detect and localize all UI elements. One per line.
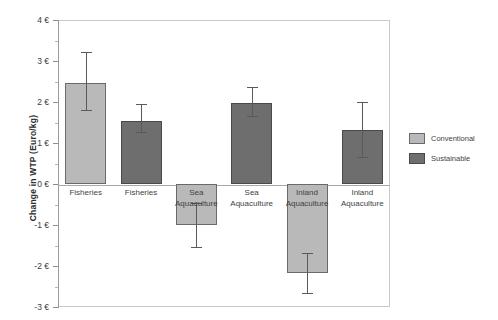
category-label-2: Sea Aquaculture <box>169 188 224 209</box>
error-bar-cap-lower-3 <box>247 116 258 117</box>
category-label-4: Inland Aquaculture <box>279 188 334 209</box>
y-tick-mark <box>53 225 58 226</box>
y-minor-tick-mark <box>55 205 58 206</box>
y-tick-mark <box>53 143 58 144</box>
y-tick-label: -2 € <box>3 261 49 271</box>
chart-legend: Conventional Sustainable <box>409 133 495 173</box>
y-tick-label: 4 € <box>3 15 49 25</box>
y-tick-label: 3 € <box>3 56 49 66</box>
legend-swatch-sustainable <box>409 153 425 164</box>
error-bar-cap-upper-1 <box>136 104 147 105</box>
y-tick-label: -1 € <box>3 220 49 230</box>
y-tick-mark <box>53 102 58 103</box>
legend-swatch-conventional <box>409 133 425 144</box>
error-bar-cap-upper-4 <box>302 253 313 254</box>
y-tick-mark <box>53 20 58 21</box>
error-bar-line-2 <box>196 203 197 246</box>
error-bar-line-0 <box>86 52 87 110</box>
error-bar-line-4 <box>307 253 308 294</box>
y-minor-tick-mark <box>55 246 58 247</box>
y-tick-mark <box>53 307 58 308</box>
y-tick-mark <box>53 61 58 62</box>
error-bar-line-3 <box>252 87 253 116</box>
category-label-1: Fisheries <box>113 188 168 199</box>
category-label-3: Sea Aquaculture <box>224 188 279 209</box>
legend-label-sustainable: Sustainable <box>431 154 470 163</box>
y-minor-tick-mark <box>55 41 58 42</box>
plot-area <box>58 20 390 307</box>
legend-item-sustainable: Sustainable <box>409 153 495 164</box>
error-bar-line-5 <box>362 102 363 157</box>
y-tick-label: 1 € <box>3 138 49 148</box>
zero-baseline <box>58 185 390 186</box>
error-bar-cap-lower-1 <box>136 132 147 133</box>
category-label-5: Inland Aquaculture <box>335 188 390 209</box>
y-minor-tick-mark <box>55 82 58 83</box>
chart-figure: Change in WTP (Euro/kg) 4 €3 €2 €1 €0 €-… <box>0 0 498 320</box>
error-bar-cap-upper-0 <box>81 52 92 53</box>
error-bar-cap-upper-3 <box>247 87 258 88</box>
y-minor-tick-mark <box>55 287 58 288</box>
error-bar-cap-lower-4 <box>302 293 313 294</box>
error-bar-line-1 <box>141 104 142 132</box>
category-label-0: Fisheries <box>58 188 113 199</box>
y-minor-tick-mark <box>55 164 58 165</box>
y-minor-tick-mark <box>55 123 58 124</box>
y-tick-label: 0 € <box>3 179 49 189</box>
error-bar-cap-lower-2 <box>191 247 202 248</box>
legend-item-conventional: Conventional <box>409 133 495 144</box>
error-bar-cap-upper-5 <box>357 102 368 103</box>
error-bar-cap-lower-5 <box>357 157 368 158</box>
error-bar-cap-lower-0 <box>81 110 92 111</box>
y-tick-mark <box>53 266 58 267</box>
y-tick-mark <box>53 184 58 185</box>
y-axis-line <box>58 20 59 308</box>
y-tick-label: -3 € <box>3 302 49 312</box>
legend-label-conventional: Conventional <box>431 134 475 143</box>
y-tick-label: 2 € <box>3 97 49 107</box>
